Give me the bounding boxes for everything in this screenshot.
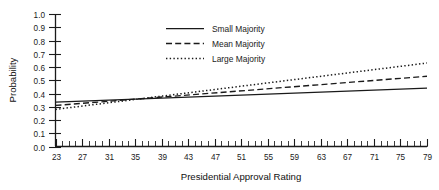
x-axis-tick-label: 31 xyxy=(105,153,115,162)
x-axis-tick-label: 51 xyxy=(237,153,247,162)
x-axis-tick-label: 79 xyxy=(423,153,433,162)
x-axis-tick-labels: 232731353943475155596367717579 xyxy=(52,153,433,162)
y-axis-tick-label: 0.0 xyxy=(34,144,46,153)
y-axis-tick-label: 0.7 xyxy=(34,51,46,60)
y-axis-tick-label: 0.8 xyxy=(34,38,46,47)
x-axis-tick-label: 71 xyxy=(370,153,380,162)
y-axis-tick-label: 0.2 xyxy=(34,117,46,126)
x-axis-tick-label: 67 xyxy=(343,153,353,162)
x-axis-tick-label: 63 xyxy=(317,153,327,162)
y-axis-tick-label: 0.5 xyxy=(34,77,46,86)
x-axis-tick-label: 75 xyxy=(396,153,406,162)
x-axis-tick-label: 23 xyxy=(52,153,62,162)
line-chart: 1.00.90.80.70.60.50.40.30.20.10.0 232731… xyxy=(0,0,439,190)
x-axis-tick-label: 35 xyxy=(131,153,141,162)
legend-label: Large Majority xyxy=(212,54,266,64)
y-axis-tick-label: 0.1 xyxy=(34,130,46,139)
y-axis-tick-label: 0.3 xyxy=(34,104,46,113)
y-axis-tick-label: 0.4 xyxy=(34,91,46,100)
y-axis-tick-label: 1.0 xyxy=(34,11,46,20)
y-axis-tick-label: 0.6 xyxy=(34,64,46,73)
x-axis-tick-label: 47 xyxy=(211,153,221,162)
y-axis-tick-label: 0.9 xyxy=(34,24,46,33)
x-axis-tick-label: 39 xyxy=(158,153,168,162)
x-axis-tick-label: 59 xyxy=(290,153,300,162)
x-axis-tick-label: 27 xyxy=(78,153,88,162)
y-axis-title: Probability xyxy=(7,57,18,102)
x-axis-tick-label: 43 xyxy=(184,153,194,162)
chart-figure: 1.00.90.80.70.60.50.40.30.20.10.0 232731… xyxy=(0,0,439,190)
y-axis-tick-labels: 1.00.90.80.70.60.50.40.30.20.10.0 xyxy=(34,11,46,153)
x-axis-tick-label: 55 xyxy=(264,153,274,162)
legend-label: Small Majority xyxy=(212,24,265,34)
legend-label: Mean Majority xyxy=(212,39,265,49)
x-axis-title: Presidential Approval Rating xyxy=(181,171,302,182)
